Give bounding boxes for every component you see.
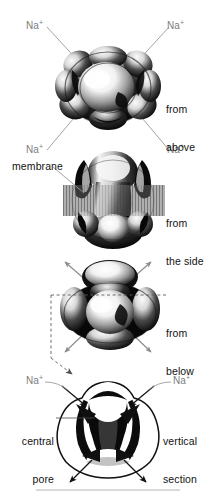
label-na-top-left: Na+ <box>26 20 43 33</box>
protein-view-vertical-section <box>45 382 171 482</box>
label-na-section-left: Na+ <box>26 375 43 388</box>
caption-from-the-side: from the side <box>166 192 204 292</box>
protein-view-from-below <box>51 260 166 374</box>
caption-from-above-line2: above <box>166 141 195 154</box>
caption-from-the-side-line1: from <box>166 217 204 230</box>
caption-vertical-section-line2: section <box>163 473 197 486</box>
caption-vertical-section-line1: vertical <box>163 435 197 448</box>
caption-from-above-line1: from <box>166 103 195 116</box>
protein-view-from-side <box>53 151 165 249</box>
label-central-pore: central pore <box>0 410 54 501</box>
caption-vertical-section: vertical section <box>163 410 197 501</box>
label-membrane: membrane <box>12 160 63 173</box>
caption-from-above: from above <box>166 78 195 178</box>
caption-from-the-side-line2: the side <box>166 255 204 268</box>
label-central-pore-line2: pore <box>0 473 54 486</box>
protein-view-from-above <box>47 27 169 150</box>
figure-root: Na+ Na+ Na+ Na+ from above membrane from… <box>0 0 216 501</box>
label-na-top-right: Na+ <box>167 20 184 33</box>
label-central-pore-line1: central <box>0 435 54 448</box>
protein-body-above <box>55 45 162 130</box>
caption-from-below-line1: from <box>166 327 194 340</box>
label-na-bottom-left: Na+ <box>26 144 43 157</box>
protein-body-below <box>60 260 160 350</box>
label-na-section-right: Na+ <box>173 375 190 388</box>
